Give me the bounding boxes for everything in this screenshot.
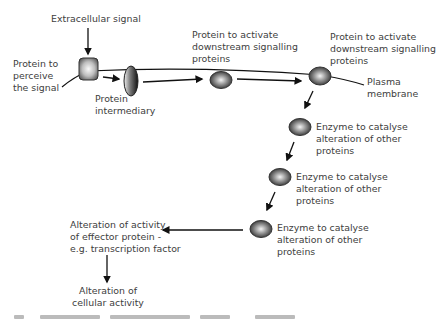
enzyme-1-label-line: proteins — [316, 145, 408, 157]
enzyme-3-label-line: alteration of other — [277, 234, 369, 246]
intermediary-protein-icon — [124, 66, 138, 96]
enzyme-2-label-line: alteration of other — [296, 183, 388, 195]
intermediary-label-line: Protein — [95, 93, 155, 105]
intermediary-label-line: intermediary — [95, 105, 155, 117]
plasma-membrane-label-line: Plasma — [367, 76, 418, 88]
receptor-label: Protein to perceive the signal — [13, 58, 59, 95]
activator-2-label-line: downstream signalling — [330, 43, 436, 55]
outcome-label-line: cellular activity — [72, 297, 144, 309]
intermediary-label: Protein intermediary — [95, 93, 155, 117]
activator-2-label-line: proteins — [330, 55, 436, 67]
effector-label-line: Alteration of activity — [70, 219, 181, 231]
enzyme-2-label-line: proteins — [296, 195, 388, 207]
cropped-caption-fragment — [200, 315, 230, 319]
enzyme-1-label-line: alteration of other — [316, 133, 408, 145]
cropped-caption-fragment — [255, 315, 295, 319]
arrow-receptor-to-intermediary — [103, 77, 119, 79]
effector-label: Alteration of activity of effector prote… — [70, 219, 181, 256]
activator-2-label-line: Protein to activate — [330, 31, 436, 43]
effector-label-line: of effector protein - — [70, 231, 181, 243]
activator-1-label-line: Protein to activate — [192, 29, 298, 41]
enzyme-3-label-line: Enzyme to catalyse — [277, 222, 369, 234]
receptor-label-line: Protein to — [13, 58, 59, 70]
activator-1-label-line: proteins — [192, 53, 298, 65]
effector-label-line: e.g. transcription factor — [70, 243, 181, 255]
outcome-label: Alteration of cellular activity — [72, 285, 144, 309]
cropped-caption-fragment — [110, 315, 190, 319]
arrow-to-enzyme-3 — [267, 192, 275, 210]
cropped-caption-fragment — [40, 315, 100, 319]
extracellular-signal-label: Extracellular signal — [51, 13, 141, 25]
arrow-to-enzyme-1 — [305, 91, 313, 108]
enzyme-2-label-line: Enzyme to catalyse — [296, 171, 388, 183]
enzyme-3-label-line: proteins — [277, 246, 369, 258]
enzyme-1-icon — [289, 119, 311, 136]
receptor-protein-icon — [79, 58, 98, 80]
plasma-membrane-label: Plasma membrane — [367, 76, 418, 100]
activator-1-label-line: downstream signalling — [192, 41, 298, 53]
cropped-caption-fragment — [14, 315, 24, 319]
arrow-to-enzyme-2 — [287, 142, 294, 160]
activator-protein-1-icon — [210, 72, 232, 89]
enzyme-3-icon — [250, 221, 272, 238]
activator-1-label: Protein to activate downstream signallin… — [192, 29, 298, 66]
receptor-label-line: perceive — [13, 70, 59, 82]
receptor-label-line: the signal — [13, 82, 59, 94]
enzyme-2-label: Enzyme to catalyse alteration of other p… — [296, 171, 388, 208]
plasma-membrane-label-line: membrane — [367, 88, 418, 100]
enzyme-2-icon — [269, 169, 291, 186]
outcome-label-line: Alteration of — [72, 285, 144, 297]
activator-protein-2-icon — [309, 67, 331, 85]
enzyme-3-label: Enzyme to catalyse alteration of other p… — [277, 222, 369, 259]
activator-2-label: Protein to activate downstream signallin… — [330, 31, 436, 68]
arrow-intermediary-to-activator — [143, 79, 202, 82]
enzyme-1-label: Enzyme to catalyse alteration of other p… — [316, 121, 408, 158]
arrow-activator-to-activator — [237, 79, 301, 81]
enzyme-1-label-line: Enzyme to catalyse — [316, 121, 408, 133]
